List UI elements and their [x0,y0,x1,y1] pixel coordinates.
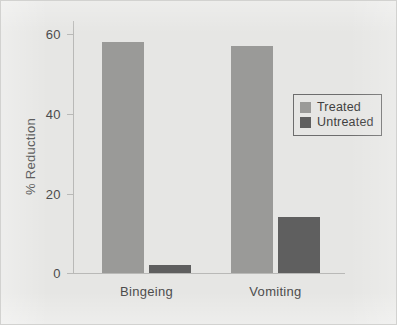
legend-swatch-treated-icon [300,102,311,113]
chart-figure: % Reduction 60 40 20 0 Bingeing Vomiting… [0,0,397,325]
x-axis-label-bingeing: Bingeing [102,284,191,299]
plot-area: % Reduction 60 40 20 0 Bingeing Vomiting… [1,1,397,325]
legend-label-untreated: Untreated [317,116,374,129]
x-axis-line [73,273,345,274]
legend-item-untreated: Untreated [300,115,374,130]
chart-legend: Treated Untreated [293,94,382,136]
y-axis-line [73,21,74,274]
y-tick-label-40: 40 [46,108,61,121]
legend-label-treated: Treated [317,101,361,114]
y-tick-label-60: 60 [46,28,61,41]
bar-vomiting-untreated [278,217,320,273]
bar-bingeing-untreated [149,265,191,273]
x-axis-label-vomiting: Vomiting [231,284,320,299]
y-tick-mark-0 [67,273,74,274]
y-axis-title: % Reduction [23,102,38,212]
y-tick-mark-60 [67,34,74,35]
y-tick-mark-20 [67,194,74,195]
bar-bingeing-treated [102,42,144,273]
bar-vomiting-treated [231,46,273,273]
y-tick-label-20: 20 [46,188,61,201]
legend-item-treated: Treated [300,100,374,115]
legend-swatch-untreated-icon [300,117,311,128]
y-tick-label-0: 0 [53,267,61,280]
y-tick-mark-40 [67,114,74,115]
